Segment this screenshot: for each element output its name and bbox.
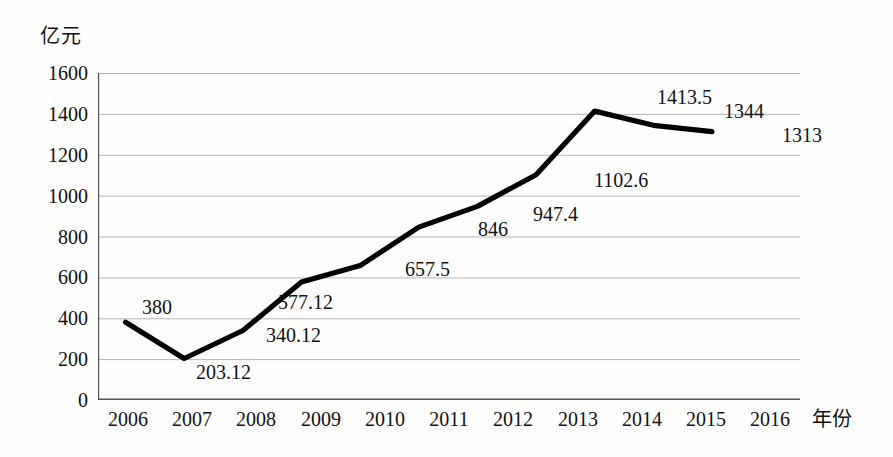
- y-axis-tick-labels: 1600 1400 1200 1000 800 600 400 200 0: [32, 73, 88, 400]
- y-tick-1000: 1000: [32, 186, 88, 206]
- y-tick-1400: 1400: [32, 104, 88, 124]
- y-tick-200: 200: [32, 349, 88, 369]
- x-tick-2010: 2010: [365, 409, 405, 429]
- x-tick-2012: 2012: [493, 409, 533, 429]
- y-tick-800: 800: [32, 227, 88, 247]
- data-label-2010: 657.5: [405, 259, 450, 279]
- data-label-2012: 947.4: [533, 204, 578, 224]
- x-axis-title: 年份: [812, 409, 852, 429]
- y-tick-1600: 1600: [32, 63, 88, 83]
- plot-area: [98, 73, 800, 400]
- data-label-2013: 1102.6: [594, 170, 648, 190]
- data-line-series: [126, 111, 712, 358]
- data-label-2009: 577.12: [278, 292, 333, 312]
- data-label-2016: 1313: [782, 125, 822, 145]
- data-label-2015: 1344: [724, 101, 764, 121]
- x-tick-2016: 2016: [750, 409, 790, 429]
- chart-page: 亿元 1600 1400 1200 1000 800 600 400 200 0: [0, 0, 893, 457]
- x-tick-2013: 2013: [558, 409, 598, 429]
- x-tick-2009: 2009: [301, 409, 341, 429]
- x-tick-2015: 2015: [686, 409, 726, 429]
- x-tick-2007: 2007: [172, 409, 212, 429]
- y-tick-1200: 1200: [32, 145, 88, 165]
- y-axis-unit-label: 亿元: [40, 26, 82, 46]
- data-label-2014: 1413.5: [657, 87, 712, 107]
- y-tick-0: 0: [32, 390, 88, 410]
- y-tick-600: 600: [32, 267, 88, 287]
- x-tick-2006: 2006: [108, 409, 148, 429]
- data-label-2007: 203.12: [196, 362, 251, 382]
- data-label-2008: 340.12: [266, 325, 321, 345]
- x-tick-2008: 2008: [236, 409, 276, 429]
- data-label-2011: 846: [478, 219, 508, 239]
- data-label-2006: 380: [142, 297, 172, 317]
- y-tick-400: 400: [32, 308, 88, 328]
- line-chart-svg: [98, 73, 800, 400]
- x-tick-2011: 2011: [429, 409, 468, 429]
- x-tick-2014: 2014: [622, 409, 662, 429]
